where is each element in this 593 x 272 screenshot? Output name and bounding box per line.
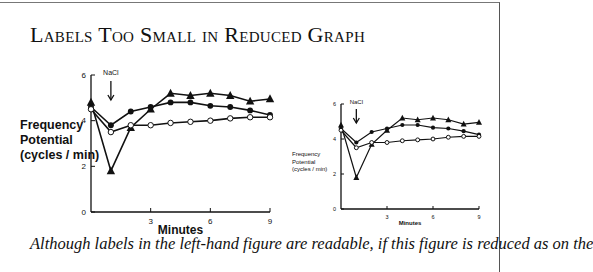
filled-circle-marker	[416, 123, 420, 127]
open-circle-marker	[267, 115, 272, 120]
x-tick-label: 3	[385, 214, 388, 220]
x-tick-label: 3	[148, 217, 153, 226]
open-circle-marker	[400, 139, 404, 143]
open-circle-marker	[247, 115, 252, 120]
filled-circle-marker	[247, 107, 253, 113]
filled-circle-marker	[370, 130, 374, 134]
triangle-marker	[430, 115, 436, 121]
triangle-marker	[206, 89, 214, 97]
figure-caption: Although labels in the left-hand figure …	[30, 234, 593, 254]
open-circle-marker	[88, 107, 93, 112]
filled-circle-marker	[227, 104, 233, 110]
right-chart: 0246369MinutesNaCl	[333, 99, 482, 226]
open-circle-marker	[208, 118, 213, 123]
filled-circle-marker	[108, 122, 114, 128]
filled-circle-marker	[354, 140, 358, 144]
open-circle-marker	[416, 138, 420, 142]
x-tick-label: 6	[431, 214, 434, 220]
open-circle-marker	[446, 135, 450, 139]
x-tick-label: 9	[268, 217, 273, 226]
filled-circle-marker	[168, 99, 174, 105]
open-circle-marker	[188, 119, 193, 124]
nacl-annotation: NaCl	[350, 99, 363, 105]
open-circle-marker	[462, 134, 466, 138]
series-line-filled-triangle	[91, 93, 270, 171]
x-tick-label: 9	[477, 214, 480, 220]
filled-circle-marker	[462, 129, 466, 133]
open-circle-marker	[339, 128, 343, 132]
filled-circle-marker	[431, 126, 435, 130]
y-tick-label: 0	[82, 208, 87, 217]
filled-circle-marker	[188, 99, 194, 105]
open-circle-marker	[227, 116, 232, 121]
filled-circle-marker	[148, 104, 154, 110]
open-circle-marker	[431, 137, 435, 141]
filled-circle-marker	[400, 123, 404, 127]
triangle-marker	[353, 174, 359, 180]
open-circle-marker	[108, 129, 113, 134]
open-circle-marker	[168, 120, 173, 125]
filled-circle-marker	[207, 103, 213, 109]
series-line-filled-triangle	[341, 118, 479, 178]
triangle-marker	[476, 119, 482, 125]
nacl-annotation: NaCl	[103, 69, 119, 76]
triangle-marker	[166, 89, 174, 97]
triangle-marker	[107, 166, 115, 174]
x-tick-label: 6	[208, 217, 213, 226]
y-tick-label: 4	[333, 136, 336, 142]
y-tick-label: 2	[333, 171, 336, 177]
y-tick-label: 0	[333, 206, 336, 212]
triangle-marker	[266, 94, 274, 102]
open-circle-marker	[148, 123, 153, 128]
left-chart: 0246369MinutesNaCl	[82, 69, 275, 237]
open-circle-marker	[477, 134, 481, 138]
y-tick-label: 6	[333, 101, 336, 107]
filled-circle-marker	[385, 126, 389, 130]
x-axis-label: Minutes	[399, 220, 422, 226]
open-circle-marker	[128, 123, 133, 128]
y-tick-label: 2	[82, 162, 87, 171]
y-tick-label: 4	[82, 116, 87, 125]
triangle-marker	[399, 115, 405, 121]
open-circle-marker	[354, 146, 358, 150]
filled-circle-marker	[446, 126, 450, 130]
open-circle-marker	[370, 141, 374, 145]
y-tick-label: 6	[82, 71, 87, 80]
filled-circle-marker	[128, 109, 134, 115]
open-circle-marker	[385, 141, 389, 145]
